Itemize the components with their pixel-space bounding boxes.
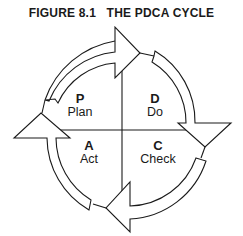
quadrant-letter: D [125,92,185,106]
quadrant-letter: P [50,92,110,106]
quadrant-plan: P Plan [50,92,110,120]
quadrant-label: Plan [50,106,110,120]
quadrant-check: C Check [128,139,188,167]
quadrant-letter: C [128,139,188,153]
quadrant-label: Check [128,153,188,167]
quadrant-act: A Act [59,139,119,167]
quadrant-letter: A [59,139,119,153]
quadrant-label: Act [59,153,119,167]
quadrant-label: Do [125,106,185,120]
quadrant-do: D Do [125,92,185,120]
pdca-cycle-diagram [0,0,243,236]
